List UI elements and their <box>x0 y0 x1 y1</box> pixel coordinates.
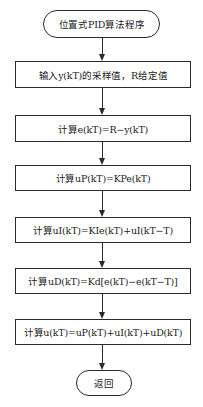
connector-sum-end <box>102 345 103 364</box>
p-term-label: 计算uP(kT)=KPe(kT) <box>56 171 151 185</box>
arrowhead-icon <box>99 312 105 319</box>
sum-label: 计算u(kT)=uP(kT)+uI(kT)+uD(kT) <box>24 325 183 339</box>
d-term-label: 计算uD(kT)=Kd[e(kT)−e(kT−T)] <box>28 274 177 288</box>
error-label: 计算e(kT)=R−y(kT) <box>58 122 148 136</box>
connector-i-d <box>102 243 103 262</box>
flowchart: 位置式PID算法程序 输入y(kT)的采样值，R给定值 计算e(kT)=R−y(… <box>0 0 203 407</box>
connector-p-i <box>102 191 103 211</box>
start-label: 位置式PID算法程序 <box>59 17 145 31</box>
arrowhead-icon <box>99 158 105 165</box>
arrowhead-icon <box>99 210 105 217</box>
connector-start-input <box>102 38 103 55</box>
input-label: 输入y(kT)的采样值，R给定值 <box>39 68 168 82</box>
error-node: 计算e(kT)=R−y(kT) <box>15 115 191 142</box>
end-node: 返回 <box>76 370 132 396</box>
input-node: 输入y(kT)的采样值，R给定值 <box>15 61 191 88</box>
start-node: 位置式PID算法程序 <box>43 10 160 38</box>
end-label: 返回 <box>94 376 114 390</box>
arrowhead-icon <box>99 108 105 115</box>
connector-d-sum <box>102 294 103 313</box>
arrowhead-icon <box>99 261 105 268</box>
connector-error-p <box>102 142 103 159</box>
p-term-node: 计算uP(kT)=KPe(kT) <box>15 165 191 191</box>
connector-input-error <box>102 88 103 109</box>
i-term-node: 计算uI(kT)=KIe(kT)+uI(kT−T) <box>15 217 191 243</box>
i-term-label: 计算uI(kT)=KIe(kT)+uI(kT−T) <box>33 223 173 237</box>
arrowhead-icon <box>99 363 105 370</box>
arrowhead-icon <box>99 54 105 61</box>
sum-node: 计算u(kT)=uP(kT)+uI(kT)+uD(kT) <box>15 319 191 345</box>
d-term-node: 计算uD(kT)=Kd[e(kT)−e(kT−T)] <box>15 268 191 294</box>
